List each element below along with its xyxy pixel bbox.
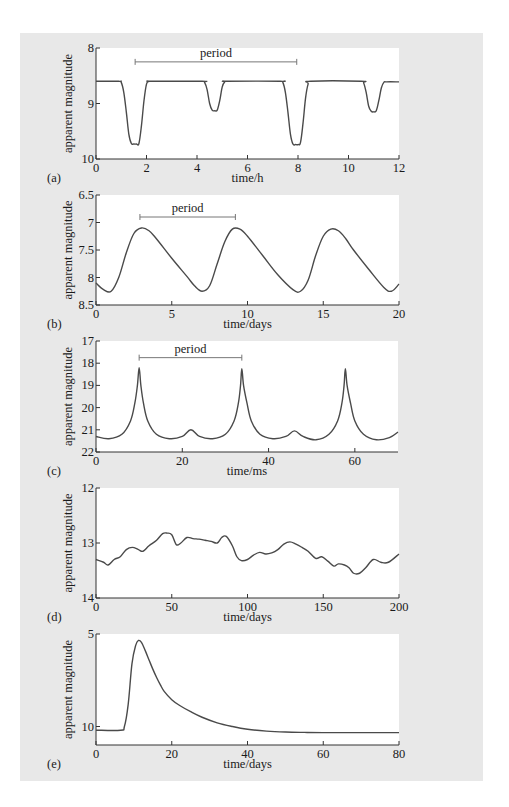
- y-tick-label: 13: [82, 536, 95, 550]
- chart-panel-a: 8910024681012time/happarent magnitude(a)…: [47, 41, 405, 185]
- x-axis-label: time/days: [223, 610, 272, 624]
- y-tick-label: 10: [82, 720, 95, 734]
- plot-area: [96, 634, 399, 745]
- x-tick-label: 0: [93, 454, 99, 468]
- y-tick-label: 17: [82, 334, 95, 348]
- x-tick-label: 0: [93, 161, 99, 175]
- y-axis-label: apparent magnitude: [61, 493, 75, 592]
- x-tick-label: 8: [295, 161, 301, 175]
- x-axis-label: time/days: [223, 317, 272, 331]
- y-tick-label: 21: [82, 423, 95, 437]
- x-axis-label: time/days: [223, 757, 272, 771]
- y-tick-label: 8: [88, 271, 94, 285]
- y-axis-label: apparent magnitude: [61, 200, 75, 299]
- x-tick-label: 20: [176, 454, 189, 468]
- x-tick-label: 15: [317, 307, 330, 321]
- y-tick-label: 18: [82, 356, 95, 370]
- period-label: period: [200, 46, 233, 60]
- y-tick-label: 6.5: [78, 188, 94, 202]
- y-tick-label: 7.5: [78, 243, 94, 257]
- y-tick-label: 7: [88, 216, 94, 230]
- plot-area: [96, 488, 399, 598]
- x-tick-label: 80: [393, 747, 406, 761]
- x-tick-label: 0: [93, 307, 99, 321]
- x-tick-label: 4: [194, 161, 201, 175]
- panel-label: (d): [47, 610, 62, 624]
- x-tick-label: 60: [317, 747, 330, 761]
- x-tick-label: 150: [314, 600, 333, 614]
- x-tick-label: 200: [390, 600, 409, 614]
- x-tick-label: 20: [166, 747, 179, 761]
- chart-panel-e: 510020406080time/daysapparent magnitude(…: [47, 627, 405, 771]
- y-axis-label: apparent magnitude: [61, 347, 75, 446]
- chart-panel-d: 121314050100150200time/daysapparent magn…: [47, 481, 408, 624]
- x-tick-label: 10: [342, 161, 355, 175]
- x-tick-label: 0: [93, 600, 99, 614]
- period-label: period: [172, 201, 205, 215]
- y-tick-label: 8: [88, 41, 94, 55]
- x-axis-label: time/h: [232, 171, 265, 185]
- y-axis-label: apparent magnitude: [61, 640, 75, 739]
- x-tick-label: 12: [393, 161, 406, 175]
- y-tick-label: 20: [82, 401, 95, 415]
- y-axis-label: apparent magnitude: [61, 54, 75, 153]
- y-tick-label: 9: [88, 97, 94, 111]
- chart-panel-c: 1718192021220204060time/msapparent magni…: [47, 334, 398, 478]
- panel-label: (a): [47, 171, 61, 185]
- x-tick-label: 2: [143, 161, 149, 175]
- y-tick-label: 19: [82, 378, 95, 392]
- panel-label: (b): [47, 317, 62, 331]
- y-tick-label: 12: [82, 481, 95, 495]
- x-tick-label: 0: [93, 747, 99, 761]
- panel-label: (e): [47, 757, 61, 771]
- light-curve-figure: 8910024681012time/happarent magnitude(a)…: [0, 0, 509, 807]
- x-tick-label: 60: [349, 454, 362, 468]
- x-axis-label: time/ms: [227, 464, 267, 478]
- chart-panel-b: 6.577.588.505101520time/daysapparent mag…: [47, 188, 405, 331]
- x-tick-label: 5: [169, 307, 175, 321]
- x-tick-label: 20: [393, 307, 406, 321]
- y-tick-label: 5: [88, 627, 94, 641]
- period-label: period: [175, 342, 208, 356]
- panel-label: (c): [47, 464, 61, 478]
- x-tick-label: 50: [166, 600, 179, 614]
- plot-area: [96, 48, 399, 159]
- y-tick-label: 8.5: [78, 298, 94, 312]
